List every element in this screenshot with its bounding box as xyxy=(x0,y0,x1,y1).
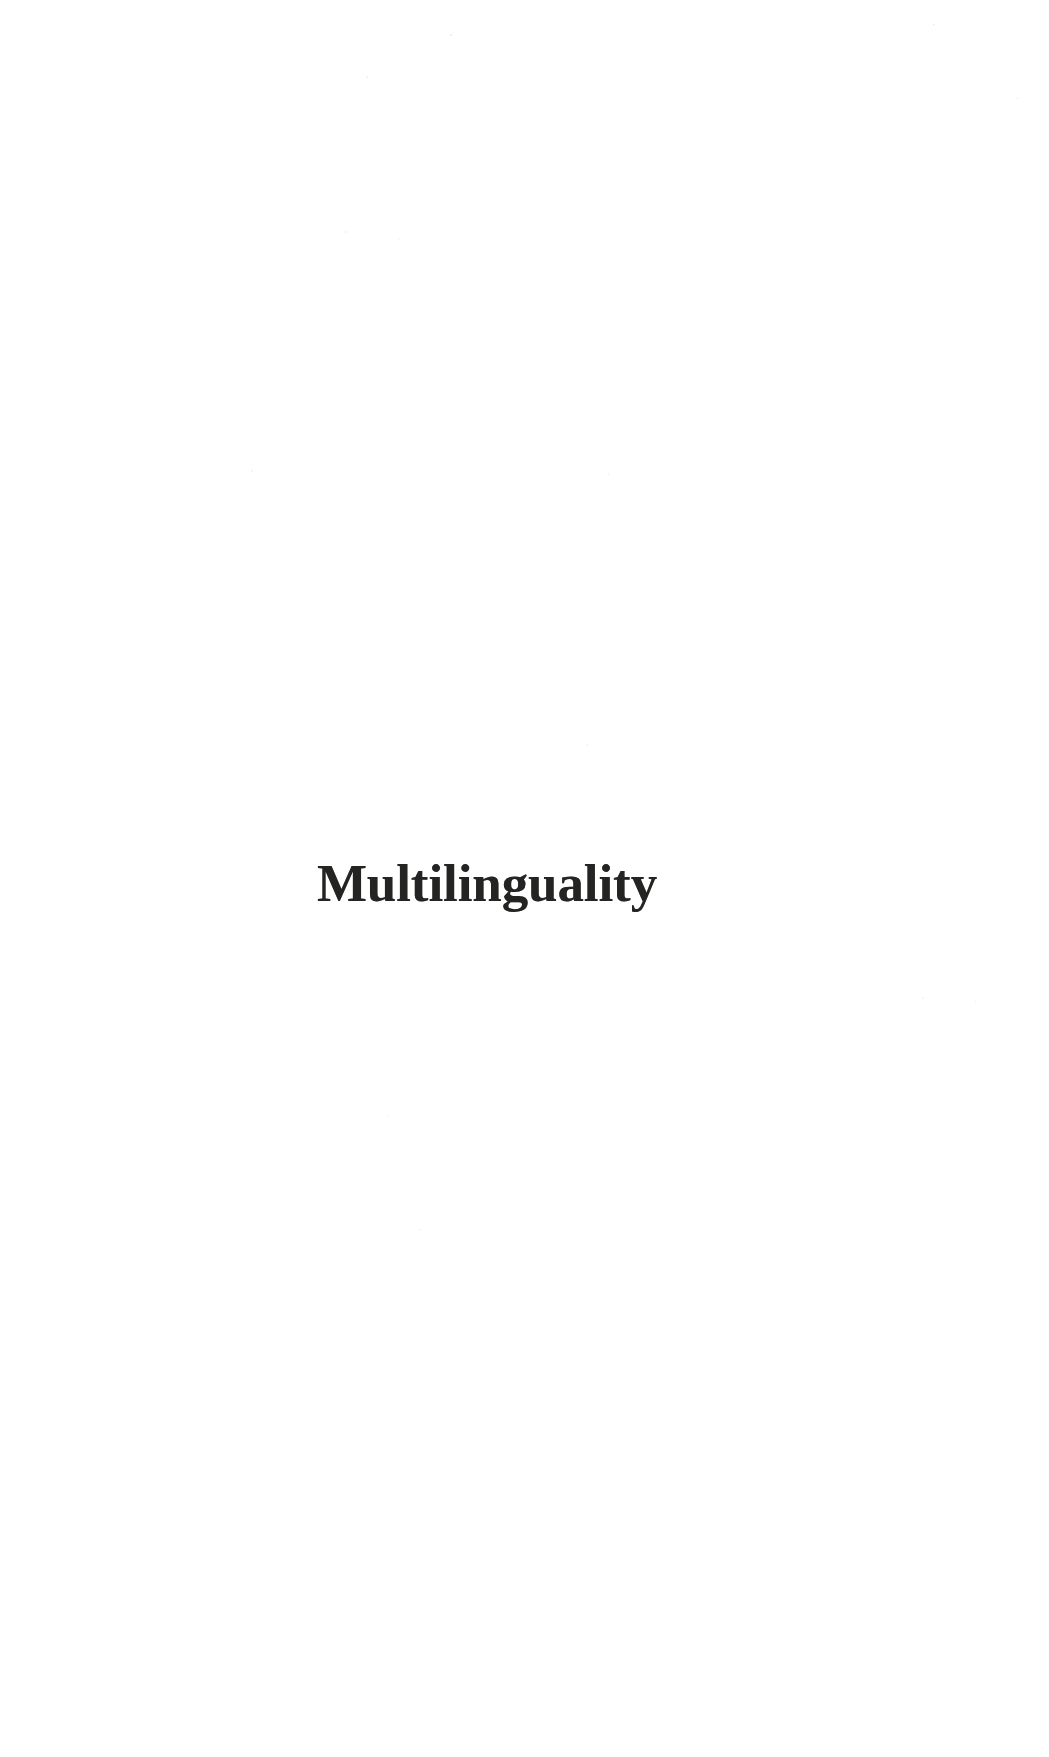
part-title-heading: Multilinguality xyxy=(317,857,657,910)
part-title-block: Multilinguality xyxy=(0,857,1049,910)
scanned-page: Multilinguality xyxy=(0,0,1049,1757)
